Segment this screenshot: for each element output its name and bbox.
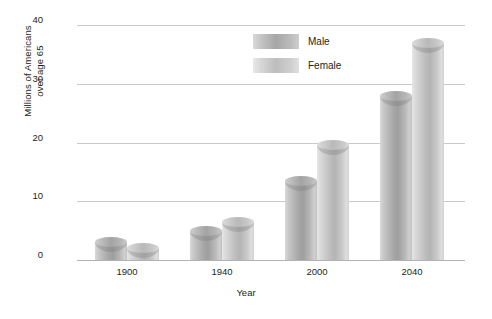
x-axis-tick-label: 2000 [282,266,352,277]
bar-1900-male [95,237,127,260]
bar-1900-female [127,243,159,260]
bar-1940-male [190,226,222,260]
legend-label-male: Male [308,36,330,47]
legend-swatch-female-icon [253,58,299,73]
x-axis-tick-label: 1900 [92,266,162,277]
bar-1940-female [222,217,254,260]
bar-cap [222,217,254,227]
bar-chart: Millions of Americans over age 65 010203… [0,0,492,319]
bar-body [412,43,444,260]
bar-body [380,96,412,261]
y-axis-tick-label: 30 [17,73,43,84]
bar-2000-female [317,140,349,260]
x-axis-tick-label: 2040 [377,266,447,277]
bar-2000-male [285,176,317,260]
y-axis-tick-label: 0 [17,249,43,260]
chart-legend: Male Female [253,32,341,80]
legend-swatch-male-icon [253,34,299,49]
bar-2040-male [380,91,412,261]
legend-item-female: Female [253,56,341,75]
y-axis-title-line1: Millions of Americans [22,25,34,116]
bar-cap [190,226,222,236]
y-axis-tick-label: 10 [17,190,43,201]
y-axis-title: Millions of Americans over age 65 [14,6,54,136]
y-axis-tick-label: 20 [17,132,43,143]
legend-item-male: Male [253,32,341,51]
x-axis-title: Year [0,287,492,298]
bar-body [317,145,349,260]
legend-label-female: Female [308,60,341,71]
bar-cap [285,176,317,186]
y-axis-tick-label: 40 [17,14,43,25]
bar-body [285,181,317,260]
bar-2040-female [412,38,444,260]
gridline [77,260,465,261]
y-axis-title-line2: over age 65 [34,45,46,96]
bar-cap [380,91,412,101]
x-axis-tick-label: 1940 [187,266,257,277]
bar-cap [412,38,444,48]
